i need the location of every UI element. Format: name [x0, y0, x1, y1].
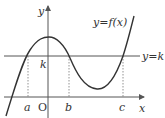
x-axis-label: x — [139, 102, 146, 115]
b-label: b — [65, 101, 72, 114]
k-label: k — [40, 58, 47, 71]
function-graph: y x O k a b c y=f(x) y=k — [0, 0, 165, 118]
a-label: a — [24, 101, 31, 114]
line-k-label: y=k — [141, 50, 164, 63]
origin-label: O — [38, 101, 47, 114]
c-label: c — [119, 101, 125, 114]
curve-label: y=f(x) — [92, 16, 127, 29]
y-axis-label: y — [37, 5, 45, 18]
